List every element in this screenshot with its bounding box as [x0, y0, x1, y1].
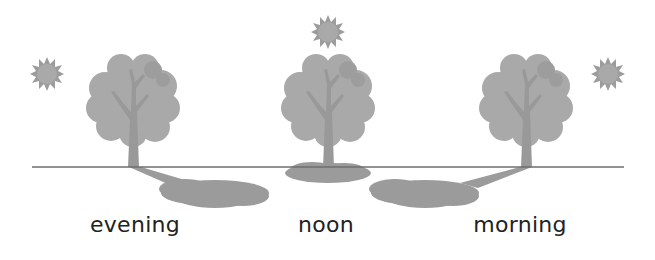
evening-scene [30, 54, 269, 208]
evening-shadow [159, 179, 269, 208]
evening-label: evening [90, 212, 180, 237]
evening-sun-icon [30, 57, 64, 91]
tree-shadow-diagram: evening noon morning [0, 0, 655, 260]
noon-sun-icon [311, 15, 345, 49]
noon-scene [281, 15, 375, 183]
morning-scene [369, 54, 625, 208]
morning-sun-icon [591, 57, 625, 91]
morning-tree-icon [479, 54, 573, 167]
noon-tree-icon [281, 54, 375, 167]
evening-tree-icon [86, 54, 180, 167]
morning-label: morning [473, 212, 567, 237]
noon-label: noon [298, 212, 354, 237]
morning-shadow-trunk [460, 167, 532, 188]
